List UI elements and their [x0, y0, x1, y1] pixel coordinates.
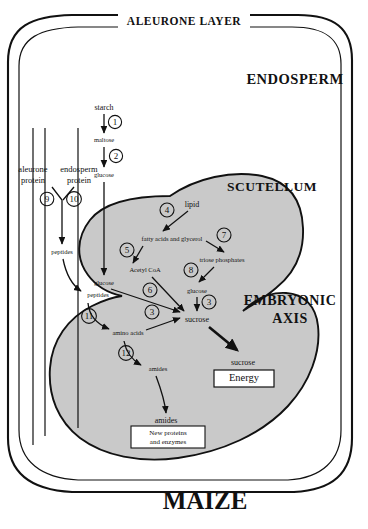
metabolite-glucose-scutellum: glucose [94, 279, 114, 286]
step-number-8: 8 [189, 265, 194, 275]
metabolite-sucrose-axis: sucrose [231, 358, 255, 367]
metabolite-peptides-scutellum: peptides [87, 291, 109, 298]
metabolite-aleurone-protein-line1: aleurone [18, 164, 47, 174]
step-number-3a: 3 [150, 307, 155, 317]
metabolite-lipid: lipid [185, 200, 200, 209]
metabolite-amides-scutellum: amides [149, 365, 168, 372]
region-label-endosperm: ENDOSPERM [246, 71, 343, 87]
step-number-11: 11 [85, 311, 94, 321]
box-label-energy: Energy [229, 372, 260, 383]
metabolite-sucrose-scutellum: sucrose [185, 315, 209, 324]
region-label-embryonic-axis-line2: AXIS [272, 311, 307, 326]
metabolite-aleurone-protein-line2: protein [21, 175, 46, 185]
metabolite-peptides-endosperm: peptides [51, 248, 73, 255]
metabolite-endosperm-protein-line2: protein [67, 175, 92, 185]
step-marker-1: 1 [108, 115, 121, 128]
step-number-7: 7 [222, 230, 227, 240]
metabolite-amino-acids: amino acids [112, 329, 144, 336]
step-marker-10: 10 [67, 192, 82, 207]
step-marker-2: 2 [109, 149, 122, 162]
step-number-1: 1 [113, 117, 118, 127]
region-label-scutellum: SCUTELLUM [227, 179, 317, 194]
step-number-3b: 3 [207, 297, 212, 307]
energy-box: Energy [214, 370, 274, 387]
step-number-10: 10 [70, 194, 80, 204]
metabolite-acetyl-coa: Acetyl CoA [129, 266, 161, 273]
metabolite-fatty-acids: fatty acids and glycerol [142, 235, 203, 242]
box-label-new-proteins-line2: and enzymes [150, 438, 187, 446]
metabolite-amides-axis: amides [155, 416, 178, 425]
step-number-2: 2 [114, 151, 119, 161]
metabolite-glucose-triose: glucose [187, 287, 207, 294]
step-number-12: 12 [122, 348, 131, 358]
metabolite-maltose: maltose [94, 136, 114, 143]
step-number-6: 6 [148, 285, 153, 295]
metabolite-starch: starch [94, 103, 113, 112]
region-label-embryonic-axis-line1: EMBRYONIC [244, 293, 337, 308]
metabolite-endosperm-protein-line1: endosperm [60, 164, 98, 174]
step-number-9: 9 [45, 194, 50, 204]
step-number-4: 4 [165, 205, 170, 215]
step-marker-9: 9 [40, 192, 54, 206]
box-label-new-proteins-line1: New proteins [149, 429, 187, 437]
figure-title: MAIZE [163, 487, 248, 514]
step-number-5: 5 [125, 245, 130, 255]
arrow-aleurone-protein-to-peptides [52, 187, 62, 244]
region-label-aleurone-layer: ALEURONE LAYER [127, 15, 241, 27]
metabolite-triose-phosphates: triose phosphates [200, 256, 245, 263]
maize-seed-diagram: ALEURONE LAYER ENDOSPERM SCUTELLUM EMBRY… [0, 0, 368, 529]
new-proteins-box: New proteins and enzymes [131, 426, 205, 448]
